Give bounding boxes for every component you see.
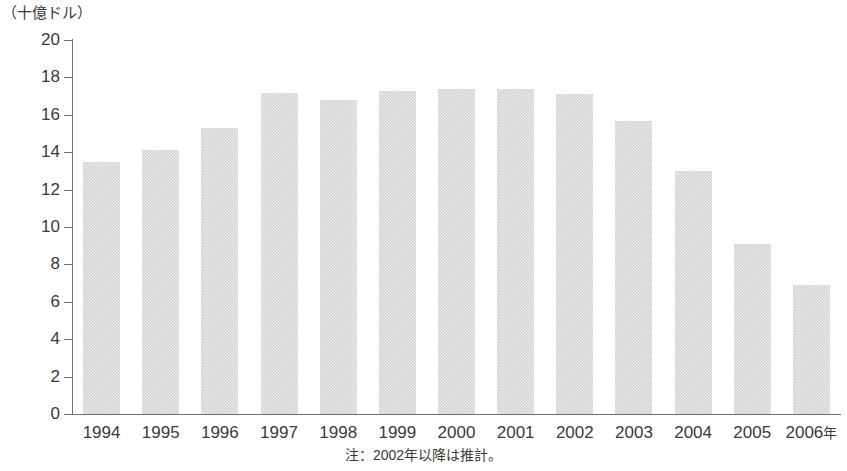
y-tick-label: 16 — [41, 105, 60, 125]
x-tick-label-2006: 2006年 — [768, 414, 847, 443]
y-tick-mark — [64, 302, 72, 303]
bar-slot: 2001 — [486, 40, 545, 414]
y-tick-mark — [64, 77, 72, 78]
y-tick-mark — [64, 227, 72, 228]
y-tick-label: 4 — [51, 329, 60, 349]
bar-2003 — [615, 121, 652, 414]
y-tick-mark — [64, 377, 72, 378]
bar-2004 — [675, 171, 712, 414]
y-tick-label: 18 — [41, 67, 60, 87]
y-tick-mark — [64, 115, 72, 116]
bar-2000 — [438, 89, 475, 414]
bar-1999 — [379, 91, 416, 415]
bar-slot: 2002 — [545, 40, 604, 414]
y-tick-mark — [64, 152, 72, 153]
bar-slot: 1997 — [249, 40, 308, 414]
bar-slot: 1998 — [309, 40, 368, 414]
bar-slot: 2005 — [723, 40, 782, 414]
y-tick-label: 20 — [41, 30, 60, 50]
y-tick-mark — [64, 339, 72, 340]
y-tick-label: 6 — [51, 292, 60, 312]
bar-slot: 1994 — [72, 40, 131, 414]
bar-slot: 1996 — [190, 40, 249, 414]
y-tick-mark — [64, 40, 72, 41]
bar-1996 — [201, 128, 238, 414]
bar-2002 — [556, 94, 593, 414]
y-tick-label: 14 — [41, 142, 60, 162]
y-tick-label: 10 — [41, 217, 60, 237]
bar-chart: （十億ドル） 20181614121086420 199419951996199… — [0, 0, 847, 471]
bar-2006 — [793, 285, 830, 414]
chart-footnote: 注：2002年以降は推計。 — [0, 446, 847, 464]
bar-1998 — [320, 100, 357, 414]
bar-slot: 2006年 — [782, 40, 841, 414]
bar-series: 1994199519961997199819992000200120022003… — [72, 40, 841, 414]
y-axis-unit-label: （十億ドル） — [2, 4, 92, 21]
y-tick-label: 2 — [51, 367, 60, 387]
bar-2005 — [734, 244, 771, 414]
bar-slot: 1995 — [131, 40, 190, 414]
bar-1997 — [261, 93, 298, 414]
bar-1994 — [83, 162, 120, 414]
bar-1995 — [142, 150, 179, 414]
bar-slot: 2004 — [664, 40, 723, 414]
y-tick-label: 12 — [41, 180, 60, 200]
bar-slot: 2003 — [604, 40, 663, 414]
y-tick-label: 8 — [51, 254, 60, 274]
bar-2001 — [497, 89, 534, 414]
bar-slot: 2000 — [427, 40, 486, 414]
y-tick-mark — [64, 190, 72, 191]
y-tick-mark — [64, 264, 72, 265]
bar-slot: 1999 — [368, 40, 427, 414]
